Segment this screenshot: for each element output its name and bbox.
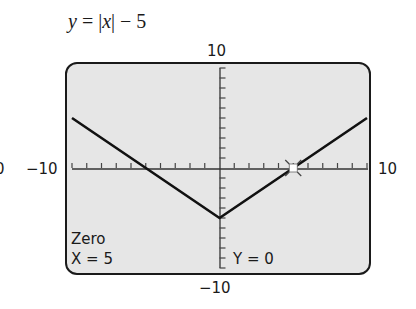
readout-x: X = 5 [71,250,113,268]
trace-cursor-icon [285,160,301,176]
readout-mode: Zero [71,230,106,248]
readout-y: Y = 0 [233,250,274,268]
graph-plot [0,0,416,309]
